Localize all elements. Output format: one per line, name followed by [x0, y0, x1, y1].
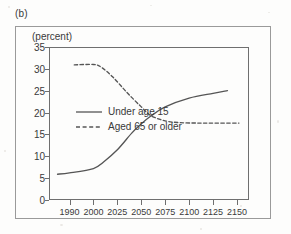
legend-swatch-dashed [76, 122, 102, 132]
y-tick-label: 35 [34, 42, 45, 53]
scan-speckle [200, 228, 202, 230]
x-tick-mark [70, 200, 71, 205]
figure-root: (b) (percent) 05101520253035 19902000202… [0, 0, 291, 234]
legend-item-under-age-15: Under age 15 [76, 104, 194, 119]
y-tick-label: 10 [34, 151, 45, 162]
x-tick-mark [117, 200, 118, 205]
scan-speckle [8, 6, 10, 8]
x-tick-label: 2150 [227, 207, 247, 218]
legend-item-aged-65-or-older: Aged 65 or older [76, 119, 194, 134]
x-tick-label: 2075 [155, 207, 175, 218]
panel-label: (b) [15, 8, 28, 20]
x-tick-label: 2050 [131, 207, 151, 218]
x-tick-mark [93, 200, 94, 205]
scan-speckle [60, 224, 63, 226]
x-tick-label: 2025 [107, 207, 127, 218]
y-tick-label: 25 [34, 85, 45, 96]
y-tick-label: 15 [34, 129, 45, 140]
scan-speckle [4, 150, 6, 152]
y-tick-label: 20 [34, 107, 45, 118]
x-tick-mark [237, 200, 238, 205]
scan-speckle [268, 12, 270, 13]
x-tick-label: 2000 [83, 207, 103, 218]
y-tick-label: 30 [34, 63, 45, 74]
legend: Under age 15 Aged 65 or older [76, 104, 194, 134]
scan-speckle [277, 120, 279, 123]
legend-swatch-solid [76, 107, 102, 117]
x-tick-label: 2125 [203, 207, 223, 218]
scan-speckle [150, 5, 152, 6]
y-tick-mark [45, 200, 49, 201]
legend-label-aged-65-or-older: Aged 65 or older [108, 121, 182, 133]
x-tick-mark [141, 200, 142, 205]
x-tick-mark [213, 200, 214, 205]
x-tick-mark [165, 200, 166, 205]
x-tick-label: 2100 [179, 207, 199, 218]
x-tick-label: 1990 [59, 207, 79, 218]
legend-label-under-age-15: Under age 15 [108, 106, 169, 118]
x-tick-mark [189, 200, 190, 205]
